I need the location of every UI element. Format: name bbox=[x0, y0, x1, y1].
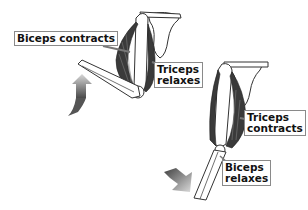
label-triceps-contracts: Triceps contracts bbox=[244, 110, 306, 136]
label-triceps-relaxes: Triceps relaxes bbox=[154, 62, 203, 88]
label-text: relaxes bbox=[157, 75, 200, 86]
arrow-up-icon bbox=[72, 74, 92, 98]
label-text: Biceps contracts bbox=[17, 33, 115, 44]
label-text: contracts bbox=[247, 123, 303, 134]
arrow-down-icon bbox=[164, 168, 192, 192]
muscle-pair-diagram: Biceps contracts Triceps relaxes Triceps… bbox=[0, 0, 308, 210]
label-biceps-relaxes: Biceps relaxes bbox=[222, 160, 271, 186]
label-text: relaxes bbox=[225, 173, 268, 184]
label-biceps-contracts: Biceps contracts bbox=[14, 31, 118, 46]
